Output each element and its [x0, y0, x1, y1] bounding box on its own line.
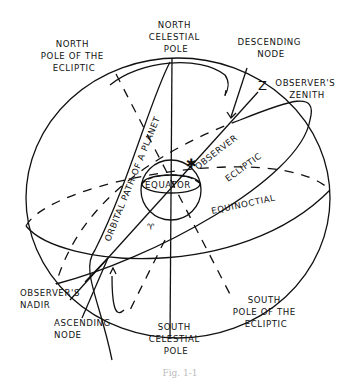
- orbital-path: [90, 62, 170, 360]
- observers-nadir-label: OBSERVER'S NADIR: [20, 288, 83, 310]
- celestial-sphere-diagram: ✱ EQUATOR ♈ ORBITAL PATH OF A PLANET OBS…: [0, 0, 360, 379]
- descending-node-pointer: [231, 68, 247, 117]
- orbital-path-upper: [110, 63, 228, 95]
- orbit-direction-arrow-lower: [110, 268, 116, 274]
- equator-label: EQUATOR: [145, 180, 191, 190]
- vernal-equinox-symbol: ♈: [147, 222, 155, 232]
- north-celestial-pole-label: NORTH CELESTIAL POLE: [149, 20, 203, 54]
- figure-caption: Fig. 1-1: [162, 368, 197, 378]
- celestial-axis: [170, 58, 172, 338]
- zenith-letter: Z: [258, 78, 267, 93]
- south-celestial-pole-label: SOUTH CELESTIAL POLE: [149, 322, 203, 356]
- descending-node-label: DESCENDING NODE: [238, 37, 305, 59]
- north-pole-ecliptic-label: NORTH POLE OF THE ECLIPTIC: [41, 39, 107, 73]
- ascending-node-pointer: [82, 258, 108, 318]
- equinoctial-front: [26, 190, 330, 259]
- observers-zenith-label: OBSERVER'S ZENITH: [275, 78, 338, 100]
- south-pole-ecliptic-label: SOUTH POLE OF THE ECLIPTIC: [233, 295, 299, 329]
- orbit-direction-arrow-upper: [225, 90, 226, 96]
- observers-nadir-pointer: [85, 258, 108, 282]
- orbital-path-lower: [112, 276, 124, 313]
